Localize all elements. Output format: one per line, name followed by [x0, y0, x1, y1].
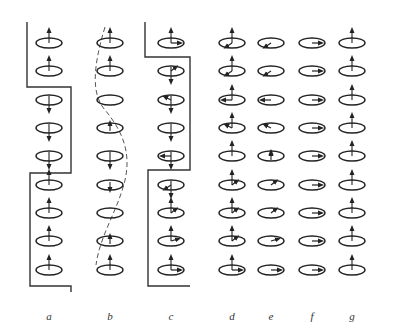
label-g: g: [349, 310, 355, 322]
spin-cell-g-7: [339, 200, 365, 218]
spin-cell-f-1: [299, 38, 325, 48]
spin-cell-g-9: [339, 257, 365, 275]
label-e: e: [269, 310, 274, 322]
spin-cell-g-1: [339, 30, 365, 48]
spin-cell-f-5: [299, 151, 325, 161]
spin-cell-e-9: [258, 265, 284, 275]
spin-cells: [36, 30, 365, 275]
spin-cell-d-2: [219, 58, 245, 76]
spin-cell-a-8: [36, 228, 62, 246]
precession-ellipse-icon: [97, 208, 123, 218]
label-f: f: [310, 310, 315, 322]
spin-cell-e-4: [258, 123, 284, 133]
spin-cell-e-8: [258, 236, 284, 246]
spin-cell-c-4: [158, 123, 184, 139]
spin-cell-f-7: [299, 208, 325, 218]
spin-cell-a-7: [36, 200, 62, 218]
panel-labels: a b c d e f g: [46, 310, 355, 322]
spin-cell-f-3: [299, 95, 325, 105]
spin-cell-a-4: [36, 123, 62, 139]
spin-cell-f-2: [299, 66, 325, 76]
precession-ellipse-icon: [97, 95, 123, 105]
spin-cell-b-6: [97, 180, 123, 190]
spin-cell-a-9: [36, 257, 62, 275]
spin-cell-d-1: [219, 30, 245, 48]
spin-cell-f-4: [299, 123, 325, 133]
spin-cell-e-1: [258, 38, 284, 48]
spin-cell-c-6: [158, 180, 184, 196]
spin-cell-g-8: [339, 228, 365, 246]
spin-cell-d-3: [219, 87, 245, 105]
spin-cell-b-8: [97, 236, 123, 246]
spin-cell-e-3: [258, 95, 284, 105]
spin-cell-c-3: [158, 95, 184, 111]
spin-cell-d-8: [219, 228, 245, 246]
spin-cell-g-3: [339, 87, 365, 105]
label-c: c: [169, 310, 174, 322]
spin-cell-d-7: [219, 200, 245, 218]
spin-cell-a-1: [36, 30, 62, 48]
spin-cell-g-2: [339, 58, 365, 76]
spin-cell-g-6: [339, 172, 365, 190]
spin-cell-c-5: [158, 151, 184, 167]
spin-cell-f-9: [299, 265, 325, 275]
spin-cell-c-1: [158, 30, 184, 48]
spin-cell-e-5: [258, 151, 284, 161]
spin-diagram: a b c d e f g: [0, 0, 401, 335]
label-b: b: [107, 310, 113, 322]
spin-cell-g-5: [339, 143, 365, 161]
spin-cell-d-5: [219, 143, 245, 161]
spin-cell-b-3: [97, 95, 123, 105]
spin-cell-e-7: [258, 208, 284, 218]
spin-cell-c-9: [158, 257, 184, 275]
spin-cell-b-2: [97, 58, 123, 76]
spin-cell-c-2: [158, 66, 184, 82]
label-d: d: [229, 310, 235, 322]
spin-cell-d-6: [219, 172, 245, 190]
spin-cell-e-6: [258, 180, 284, 190]
spin-cell-f-8: [299, 236, 325, 246]
label-a: a: [46, 310, 52, 322]
spin-cell-e-2: [258, 66, 284, 76]
spin-cell-b-7: [97, 208, 123, 218]
spin-cell-f-6: [299, 180, 325, 190]
spin-cell-a-3: [36, 95, 62, 111]
spin-cell-a-5: [36, 151, 62, 167]
spin-cell-c-7: [158, 200, 184, 218]
spin-cell-a-6: [36, 172, 62, 190]
spin-cell-b-1: [97, 30, 123, 48]
spin-cell-a-2: [36, 58, 62, 76]
spin-cell-d-9: [219, 257, 245, 275]
spin-cell-d-4: [219, 115, 245, 133]
spin-cell-b-4: [97, 123, 123, 133]
domain-curve-b: [95, 27, 127, 265]
spin-cell-g-4: [339, 115, 365, 133]
spin-cell-b-5: [97, 151, 123, 167]
spin-cell-c-8: [158, 228, 184, 246]
spin-cell-b-9: [97, 257, 123, 275]
